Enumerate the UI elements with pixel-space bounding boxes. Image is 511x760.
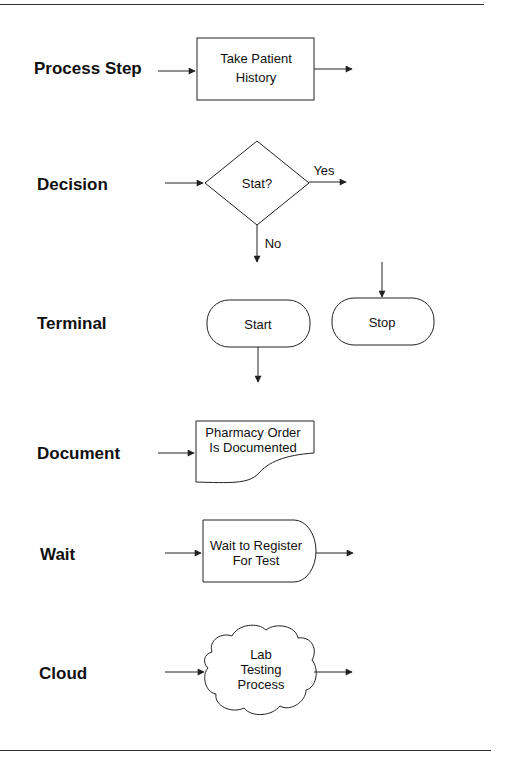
decision-no-label: No xyxy=(265,236,282,251)
terminal-stop-text: Stop xyxy=(369,315,396,330)
terminal-row xyxy=(207,262,434,382)
decision-row xyxy=(165,141,346,262)
process-step-row xyxy=(158,38,352,100)
cloud-text-line3: Process xyxy=(238,677,285,692)
cloud-text-line1: Lab xyxy=(250,647,272,662)
flowchart-legend: Take Patient History Stat? Yes No Start … xyxy=(0,0,511,760)
terminal-start-text: Start xyxy=(244,317,272,332)
process-rectangle xyxy=(197,38,314,100)
wait-text-line1: Wait to Register xyxy=(210,538,303,553)
decision-yes-label: Yes xyxy=(313,163,335,178)
process-text-line2: History xyxy=(236,70,277,85)
document-text-line1: Pharmacy Order xyxy=(205,425,301,440)
cloud-text-line2: Testing xyxy=(240,662,281,677)
wait-text-line2: For Test xyxy=(233,553,280,568)
process-text-line1: Take Patient xyxy=(220,51,292,66)
decision-text: Stat? xyxy=(242,176,272,191)
document-text-line2: Is Documented xyxy=(209,440,296,455)
